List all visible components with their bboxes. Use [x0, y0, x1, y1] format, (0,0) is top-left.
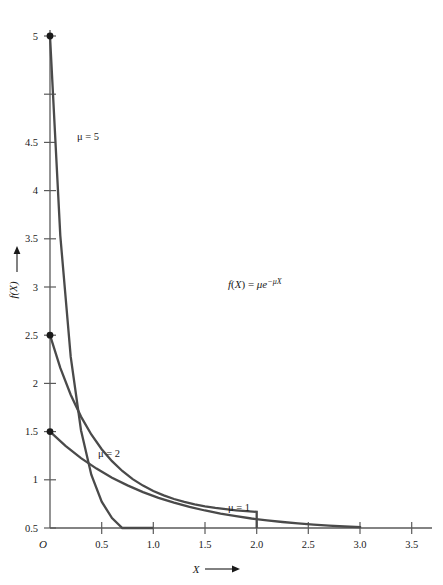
y-tick-label-0.5: 0.5: [25, 523, 38, 534]
x-tick-label-2.0: 2.0: [250, 539, 263, 550]
y-tick-label-1: 1: [33, 474, 38, 485]
y-tick-label-5: 5: [33, 31, 38, 42]
x-axis-title: X: [192, 563, 201, 575]
y-tick-label-4.5: 4.5: [25, 137, 38, 148]
curve-label-mu-1: μ = 1: [228, 502, 250, 513]
y-tick-label-2: 2: [33, 378, 38, 389]
curve-mu-1: [50, 432, 360, 528]
formula-annotation: f(X) = μe−μX: [228, 277, 283, 292]
x-tick-label-1.5: 1.5: [198, 539, 211, 550]
y-tick-label-1.5: 1.5: [25, 426, 38, 437]
x-tick-label-1.0: 1.0: [147, 539, 160, 550]
start-dot-mu-2: [47, 332, 54, 339]
y-axis-title: f(X): [7, 281, 20, 298]
y-tick-label-3.5: 3.5: [25, 233, 38, 244]
curve-label-mu-5: μ = 5: [77, 131, 99, 142]
y-tick-label-4: 4: [33, 185, 39, 196]
start-dot-mu-1: [47, 428, 54, 435]
x-tick-label-3.5: 3.5: [405, 539, 418, 550]
x-tick-label-3.0: 3.0: [353, 539, 366, 550]
start-dot-mu-5: [47, 33, 54, 40]
y-axis-title-group: f(X): [7, 246, 20, 299]
x-tick-label-0.5: 0.5: [95, 539, 108, 550]
x-tick-label-2.5: 2.5: [302, 539, 315, 550]
y-tick-label-2.5: 2.5: [25, 330, 38, 341]
x-axis-title-group: X: [192, 563, 240, 575]
curve-label-mu-2: μ = 2: [98, 448, 120, 459]
chart-canvas: 0.5 1 1.5 2 2.5 3 3.5 4 4.5 5 0.5 1.0 1.…: [0, 0, 443, 585]
exponential-distribution-chart: 0.5 1 1.5 2 2.5 3 3.5 4 4.5 5 0.5 1.0 1.…: [0, 0, 443, 585]
svg-text:f(X) = μe−μX: f(X) = μe−μX: [228, 277, 283, 292]
origin-label: O: [39, 538, 47, 550]
y-tick-label-3: 3: [33, 282, 38, 293]
